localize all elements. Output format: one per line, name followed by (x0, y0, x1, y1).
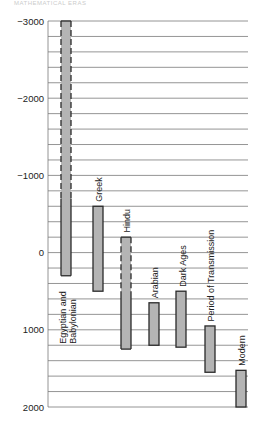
y-tick-label: 1000 (23, 324, 44, 335)
era-bar-greek (93, 206, 103, 291)
gridlines (48, 21, 248, 407)
era-label: Arabian (150, 267, 160, 298)
y-tick-label: 0 (39, 247, 44, 258)
era-bar-arabian (149, 303, 159, 345)
era-bars (61, 21, 246, 407)
era-label: Egyptian and (58, 291, 68, 344)
era-bar-period-of-transmission (205, 326, 215, 372)
era-label: Babylonian (68, 299, 78, 344)
era-bar-egyptian-and-babylonian (61, 21, 71, 276)
y-tick-label: −1000 (17, 170, 44, 181)
era-timeline-chart: −3000−2000−1000010002000Egyptian andBaby… (0, 0, 261, 421)
y-tick-label: −3000 (17, 16, 44, 27)
era-label: Hindu (122, 209, 132, 233)
y-axis-ticks: −3000−2000−1000010002000 (17, 16, 44, 413)
y-tick-label: −2000 (17, 93, 44, 104)
era-bar-modern (236, 370, 246, 407)
era-label: Period of Transmission (206, 230, 216, 322)
era-bar-dark-ages (176, 291, 186, 347)
y-tick-label: 2000 (23, 402, 44, 413)
era-label: Modern (237, 335, 247, 366)
era-label: Greek (94, 177, 104, 202)
era-bar-hindu (121, 237, 131, 349)
era-label: Dark Ages (178, 245, 188, 287)
